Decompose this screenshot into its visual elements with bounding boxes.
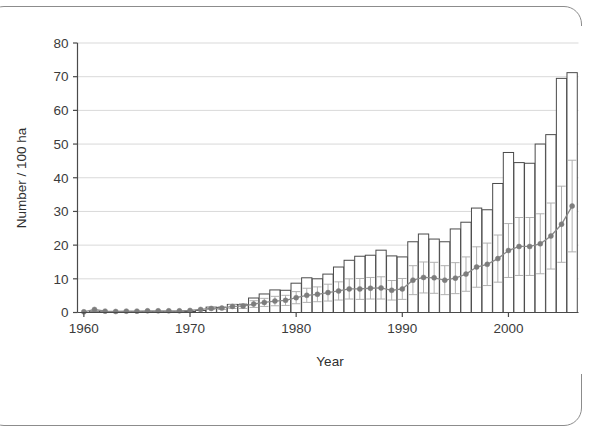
data-point-marker xyxy=(326,290,331,295)
y-tick-labels-group: 01020304050607080 xyxy=(53,36,68,321)
bars-group xyxy=(89,73,577,313)
y-tick-label: 0 xyxy=(61,305,69,320)
y-tick-label: 70 xyxy=(53,69,68,84)
y-tick-label: 20 xyxy=(53,238,68,253)
data-point-marker xyxy=(570,204,575,209)
data-point-marker xyxy=(442,278,447,283)
data-point-marker xyxy=(474,265,479,270)
y-tick-label: 80 xyxy=(53,36,68,51)
x-axis-title: Year xyxy=(316,354,344,369)
data-point-marker xyxy=(198,307,203,312)
y-tick-label: 60 xyxy=(53,103,68,118)
data-point-marker xyxy=(506,248,511,253)
data-point-marker xyxy=(410,278,415,283)
data-point-marker xyxy=(336,288,341,293)
data-point-marker xyxy=(315,292,320,297)
data-point-marker xyxy=(400,286,405,291)
data-point-marker xyxy=(432,275,437,280)
data-point-marker xyxy=(251,302,256,307)
y-tick-label: 40 xyxy=(53,171,68,186)
x-tick-label: 1960 xyxy=(69,321,99,336)
data-point-marker xyxy=(559,222,564,227)
y-tick-label: 30 xyxy=(53,204,68,219)
data-point-marker xyxy=(527,244,532,249)
data-point-marker xyxy=(304,293,309,298)
data-point-marker xyxy=(294,295,299,300)
x-tick-labels-group: 19601970198019902000 xyxy=(69,321,524,336)
x-tick-label: 1970 xyxy=(175,321,205,336)
data-point-marker xyxy=(517,244,522,249)
data-point-marker xyxy=(368,286,373,291)
data-point-marker xyxy=(453,276,458,281)
data-point-marker xyxy=(538,241,543,246)
data-point-marker xyxy=(421,275,426,280)
x-tick-label: 1990 xyxy=(387,321,417,336)
data-point-marker xyxy=(347,286,352,291)
data-point-marker xyxy=(463,272,468,277)
data-point-marker xyxy=(262,300,267,305)
x-tick-label: 1980 xyxy=(281,321,311,336)
data-point-marker xyxy=(272,299,277,304)
x-tick-label: 2000 xyxy=(493,321,523,336)
data-point-marker xyxy=(548,234,553,239)
data-point-marker xyxy=(495,256,500,261)
data-point-marker xyxy=(113,309,118,314)
data-point-marker xyxy=(357,286,362,291)
data-point-marker xyxy=(241,304,246,309)
y-axis-title: Number / 100 ha xyxy=(14,127,29,228)
data-point-marker xyxy=(92,307,97,312)
data-point-marker xyxy=(379,285,384,290)
y-tick-label: 10 xyxy=(53,272,68,287)
data-point-marker xyxy=(485,262,490,267)
data-point-marker xyxy=(389,288,394,293)
data-point-marker xyxy=(209,306,214,311)
data-point-marker xyxy=(230,304,235,309)
data-point-marker xyxy=(219,306,224,311)
y-tick-label: 50 xyxy=(53,137,68,152)
data-point-marker xyxy=(283,298,288,303)
